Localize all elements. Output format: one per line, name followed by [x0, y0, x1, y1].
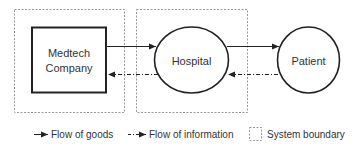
legend-goods-label: Flow of goods: [51, 129, 113, 140]
medtech-label-line2: Company: [45, 62, 93, 74]
hospital-label: Hospital: [172, 55, 212, 67]
medtech-company-node: [32, 28, 106, 93]
medtech-label-line1: Medtech: [48, 47, 90, 59]
supply-chain-diagram: Medtech Company Hospital Patient Flow of…: [0, 0, 355, 147]
patient-label: Patient: [291, 55, 325, 67]
legend-info-label: Flow of information: [149, 129, 233, 140]
legend-boundary-label: System boundary: [267, 129, 345, 140]
legend-boundary-icon: [250, 128, 262, 141]
legend: Flow of goods Flow of information System…: [34, 128, 345, 141]
